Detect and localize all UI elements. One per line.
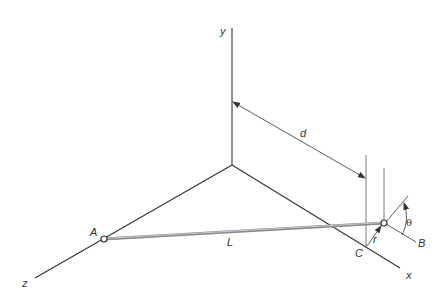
label-distance-d: d — [300, 127, 307, 139]
rod-L-highlight — [104, 223, 384, 239]
rod-geometry-diagram: y x z A B C L d r θ — [0, 0, 442, 300]
rotated-line — [386, 196, 408, 222]
label-radius-r: r — [373, 233, 378, 245]
label-point-B: B — [418, 237, 425, 249]
joint-B-icon — [381, 220, 387, 226]
label-point-C: C — [355, 247, 363, 259]
label-angle-theta: θ — [406, 217, 412, 228]
label-z-axis: z — [21, 277, 28, 289]
dimension-d-arrow — [233, 102, 365, 178]
label-y-axis: y — [219, 25, 227, 37]
label-x-axis: x — [405, 269, 412, 281]
label-length-L: L — [227, 236, 233, 248]
x-axis — [232, 165, 400, 268]
z-axis — [35, 165, 232, 278]
axes — [35, 28, 400, 278]
label-point-A: A — [89, 226, 97, 238]
joint-A-icon — [101, 236, 107, 242]
